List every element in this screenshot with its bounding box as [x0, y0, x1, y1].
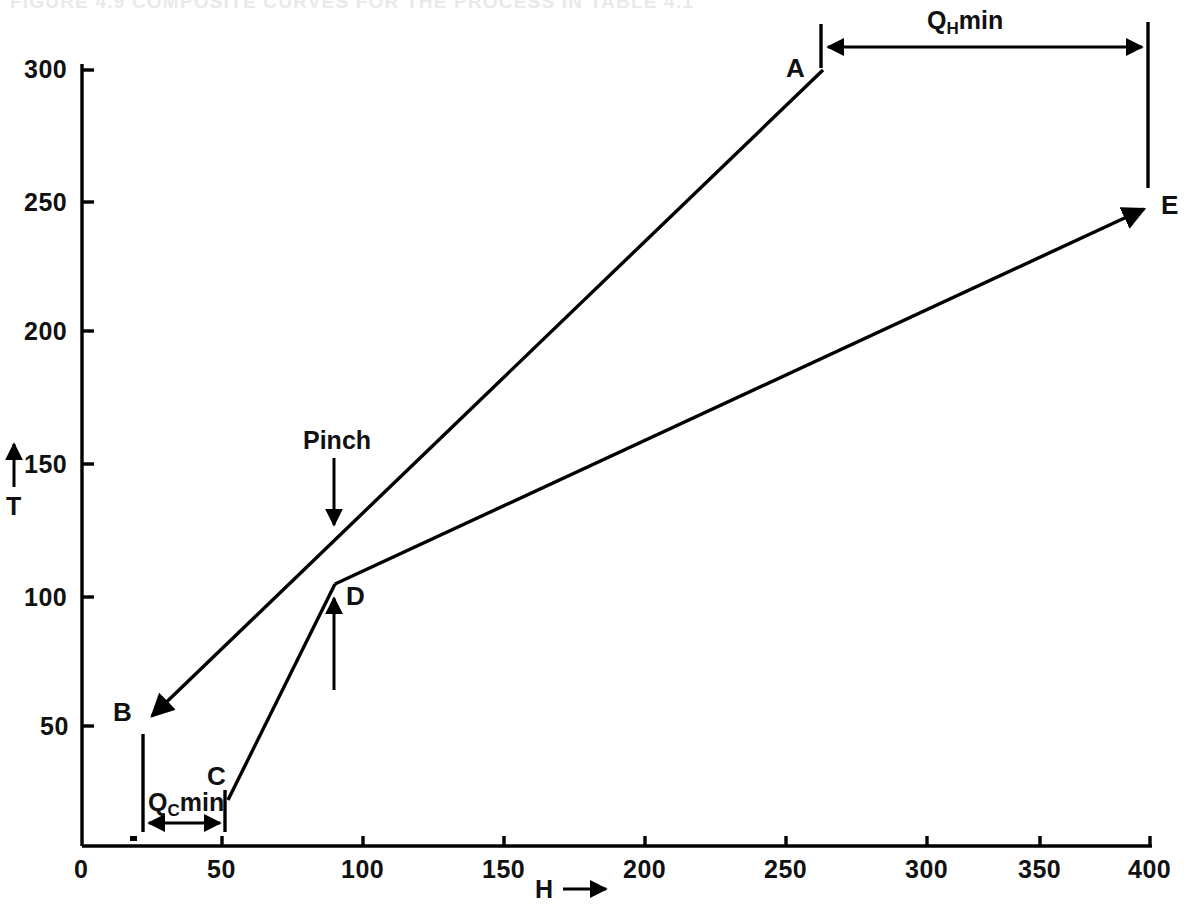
figure-canvas: FIGURE 4.9 COMPOSITE CURVES FOR THE PROC… — [0, 0, 1190, 906]
point-label-c: C — [207, 763, 226, 789]
qh-min-span — [821, 22, 1148, 188]
x-tick-300: 300 — [905, 857, 948, 882]
qc-min-q: Q — [148, 788, 167, 816]
hot-composite-curve — [152, 70, 823, 716]
y-axis-title: T — [6, 494, 21, 519]
x-tick-100: 100 — [341, 857, 384, 882]
x-tick-0: 0 — [74, 857, 88, 882]
point-label-a: A — [786, 55, 805, 81]
x-tick-400: 400 — [1128, 857, 1171, 882]
y-tick-50: 50 — [40, 714, 69, 739]
x-axis-title: H — [535, 877, 553, 902]
y-tick-250: 250 — [24, 190, 67, 215]
cold-composite-curve — [228, 209, 1144, 800]
point-label-b: B — [113, 699, 132, 725]
qh-min-subscript: H — [946, 19, 958, 38]
x-tick-250: 250 — [764, 857, 807, 882]
x-tick-200: 200 — [623, 857, 666, 882]
qh-min-text: min — [959, 6, 1003, 34]
qh-min-q: Q — [927, 6, 946, 34]
composite-curves-plot — [0, 0, 1190, 906]
qc-min-text: min — [180, 788, 224, 816]
x-tick-350: 350 — [1018, 857, 1061, 882]
y-axis — [82, 64, 94, 846]
pinch-label: Pinch — [303, 428, 371, 453]
qc-min-subscript: C — [167, 801, 179, 820]
y-tick-100: 100 — [24, 585, 67, 610]
y-tick-300: 300 — [24, 57, 67, 82]
x-tick-50: 50 — [207, 857, 236, 882]
point-label-e: E — [1161, 192, 1178, 218]
qh-min-label: QHmin — [927, 8, 1003, 33]
x-tick-150: 150 — [482, 857, 525, 882]
y-tick-150: 150 — [24, 452, 67, 477]
x-axis — [82, 836, 1152, 846]
qc-min-label: QCmin — [148, 790, 224, 815]
point-label-d: D — [346, 583, 365, 609]
y-tick-200: 200 — [24, 319, 67, 344]
